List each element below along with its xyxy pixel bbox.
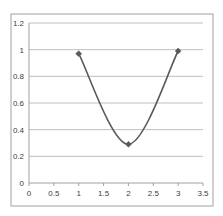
y-tick-label: 1.2 <box>13 19 25 28</box>
chart-border <box>11 14 213 206</box>
x-tick-label: 2.5 <box>148 189 160 198</box>
x-tick-label: 3.5 <box>197 189 209 198</box>
x-tick-label: 1 <box>76 189 81 198</box>
x-tick-label: 0.5 <box>48 189 60 198</box>
x-tick-label: 3 <box>176 189 181 198</box>
y-tick-label: 0 <box>20 179 25 188</box>
x-tick-label: 0 <box>27 189 32 198</box>
y-tick-label: 0.6 <box>13 99 25 108</box>
x-tick-label: 2 <box>126 189 131 198</box>
y-tick-label: 1 <box>20 46 25 55</box>
y-tick-label: 0.4 <box>13 126 25 135</box>
y-tick-label: 0.8 <box>13 72 25 81</box>
chart: 00.20.40.60.811.2 00.511.522.533.5 <box>0 0 223 216</box>
x-tick-label: 1.5 <box>98 189 110 198</box>
y-tick-label: 0.2 <box>13 152 25 161</box>
